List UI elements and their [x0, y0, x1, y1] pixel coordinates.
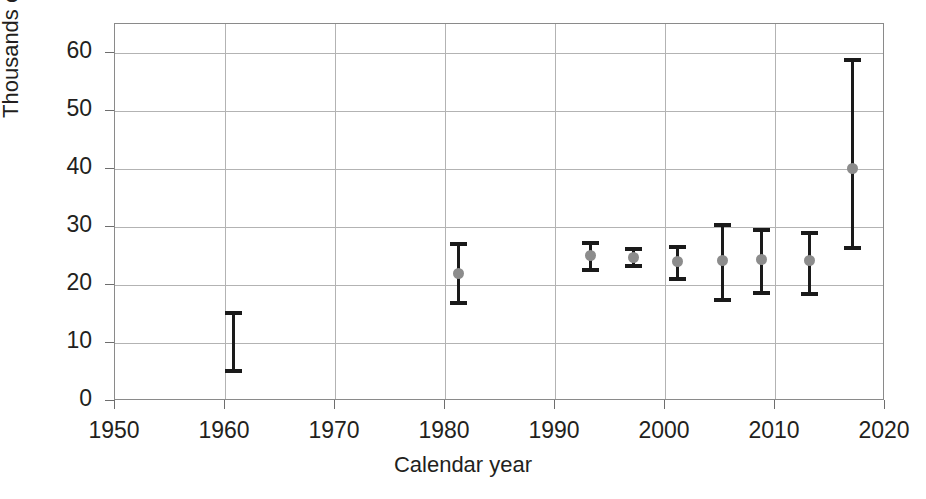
y-tick-mark: [105, 284, 114, 285]
x-tick-label: 1950: [64, 417, 164, 444]
y-gridline: [115, 343, 883, 344]
error-bar-line: [232, 313, 235, 371]
y-tick-mark: [105, 400, 114, 401]
x-tick-label: 1970: [284, 417, 384, 444]
data-point-marker: [804, 255, 815, 266]
data-point-marker: [628, 252, 639, 263]
y-gridline: [115, 227, 883, 228]
x-tick-mark: [224, 400, 225, 409]
x-tick-label: 1980: [394, 417, 494, 444]
x-gridline: [555, 24, 556, 399]
y-tick-mark: [105, 168, 114, 169]
x-tick-label: 2010: [724, 417, 824, 444]
error-bar-point: [623, 246, 643, 269]
x-tick-mark: [884, 400, 885, 409]
y-tick-mark: [105, 226, 114, 227]
data-point-marker: [672, 256, 683, 267]
x-tick-mark: [774, 400, 775, 409]
x-gridline: [775, 24, 776, 399]
y-gridline: [115, 169, 883, 170]
x-tick-mark: [444, 400, 445, 409]
y-tick-label: 40: [0, 153, 92, 180]
error-bar-cap-lower: [753, 291, 770, 295]
data-point-marker: [717, 255, 728, 266]
error-bar-point: [799, 230, 819, 297]
error-bar-cap-lower: [582, 268, 599, 272]
data-point-marker: [585, 250, 596, 261]
error-bar-point: [580, 240, 600, 273]
error-bar-cap-lower: [225, 369, 242, 373]
error-bar-cap-lower: [450, 301, 467, 305]
error-bar-cap-lower: [669, 277, 686, 281]
error-bar-cap-upper: [801, 231, 818, 235]
y-tick-mark: [105, 110, 114, 111]
x-tick-label: 2000: [614, 417, 714, 444]
y-gridline: [115, 53, 883, 54]
x-tick-mark: [664, 400, 665, 409]
error-bar-cap-upper: [582, 241, 599, 245]
chart-figure: Thousands of bears Calendar year 0102030…: [0, 0, 926, 499]
error-bar-cap-upper: [450, 242, 467, 246]
data-point-marker: [756, 254, 767, 265]
error-bar-cap-lower: [714, 298, 731, 302]
y-gridline: [115, 285, 883, 286]
y-tick-label: 30: [0, 211, 92, 238]
error-bar-point: [448, 241, 468, 306]
error-bar-cap-lower: [801, 292, 818, 296]
error-bar-cap-upper: [625, 247, 642, 251]
y-tick-mark: [105, 52, 114, 53]
error-bar-point: [224, 310, 244, 374]
x-axis-title: Calendar year: [0, 452, 926, 478]
x-tick-label: 1960: [174, 417, 274, 444]
y-tick-label: 0: [0, 385, 92, 412]
error-bar-line: [632, 249, 635, 266]
x-gridline: [665, 24, 666, 399]
error-bar-point: [712, 222, 732, 303]
y-tick-label: 20: [0, 269, 92, 296]
error-bar-line: [721, 225, 724, 300]
error-bar-cap-upper: [225, 311, 242, 315]
x-gridline: [225, 24, 226, 399]
y-tick-label: 60: [0, 37, 92, 64]
truncated-caption: [108, 0, 528, 7]
x-tick-label: 2020: [834, 417, 926, 444]
x-tick-mark: [554, 400, 555, 409]
y-tick-label: 50: [0, 95, 92, 122]
x-gridline: [445, 24, 446, 399]
x-tick-label: 1990: [504, 417, 604, 444]
error-bar-cap-lower: [625, 264, 642, 268]
data-point-marker: [453, 268, 464, 279]
error-bar-line: [676, 247, 679, 279]
x-tick-mark: [334, 400, 335, 409]
error-bar-cap-upper: [753, 228, 770, 232]
error-bar-cap-upper: [844, 58, 861, 62]
y-tick-label: 10: [0, 327, 92, 354]
y-tick-mark: [105, 342, 114, 343]
error-bar-point: [667, 244, 687, 282]
x-gridline: [335, 24, 336, 399]
error-bar-line: [851, 60, 854, 249]
plot-area: [114, 23, 884, 400]
y-gridline: [115, 111, 883, 112]
x-tick-mark: [114, 400, 115, 409]
error-bar-line: [589, 243, 592, 270]
error-bar-line: [760, 230, 763, 293]
error-bar-cap-upper: [669, 245, 686, 249]
error-bar-cap-lower: [844, 246, 861, 250]
error-bar-point: [842, 57, 862, 252]
error-bar-line: [457, 244, 460, 303]
